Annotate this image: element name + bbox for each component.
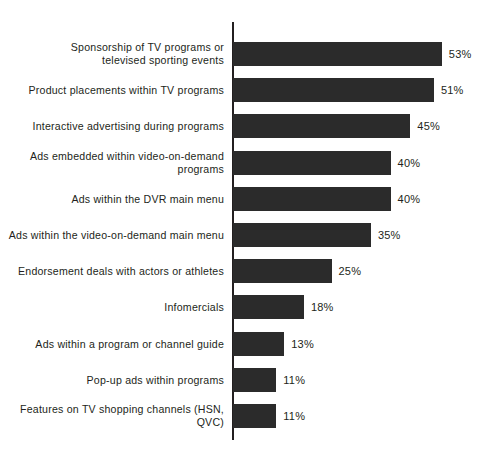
bar-value-label: 45% — [417, 120, 440, 132]
category-label: Ads within the video-on-demand main menu — [4, 229, 224, 242]
category-label: Sponsorship of TV programs or televised … — [4, 41, 224, 67]
bar-value-label: 35% — [378, 229, 401, 241]
bar — [233, 78, 434, 102]
bar-row: Sponsorship of TV programs or televised … — [0, 42, 488, 66]
bar — [233, 114, 410, 138]
category-label: Ads embedded within video-on-demand prog… — [4, 150, 224, 176]
category-label: Endorsement deals with actors or athlete… — [4, 265, 224, 278]
bar-value-label: 18% — [311, 301, 334, 313]
bar-row: Ads within the video-on-demand main menu… — [0, 223, 488, 247]
bar — [233, 332, 284, 356]
bar-row: Features on TV shopping channels (HSN, Q… — [0, 404, 488, 428]
bar — [233, 295, 304, 319]
bar-value-label: 25% — [339, 265, 362, 277]
bar — [233, 187, 391, 211]
bar — [233, 404, 276, 428]
category-label: Features on TV shopping channels (HSN, Q… — [4, 403, 224, 429]
bar-row: Ads within the DVR main menu40% — [0, 187, 488, 211]
bar-value-label: 11% — [283, 374, 305, 386]
bar-value-label: 53% — [449, 48, 472, 60]
bar-value-label: 40% — [398, 193, 421, 205]
category-label: Ads within the DVR main menu — [4, 192, 224, 205]
plot-area: Sponsorship of TV programs or televised … — [0, 0, 488, 471]
bar-row: Pop-up ads within programs11% — [0, 368, 488, 392]
bar — [233, 259, 332, 283]
category-label: Interactive advertising during programs — [4, 120, 224, 133]
bar-chart: Sponsorship of TV programs or televised … — [0, 0, 488, 471]
category-label: Ads within a program or channel guide — [4, 337, 224, 350]
bar-row: Product placements within TV programs51% — [0, 78, 488, 102]
bar-value-label: 13% — [291, 338, 314, 350]
bar — [233, 42, 442, 66]
bar-row: Interactive advertising during programs4… — [0, 114, 488, 138]
bar-row: Infomercials18% — [0, 295, 488, 319]
bar — [233, 368, 276, 392]
bar-value-label: 51% — [441, 84, 464, 96]
category-label: Infomercials — [4, 301, 224, 314]
bar-value-label: 40% — [398, 157, 421, 169]
bar-row: Ads within a program or channel guide13% — [0, 332, 488, 356]
bar — [233, 223, 371, 247]
bar-row: Endorsement deals with actors or athlete… — [0, 259, 488, 283]
bar-row: Ads embedded within video-on-demand prog… — [0, 151, 488, 175]
bar-value-label: 11% — [283, 410, 305, 422]
category-label: Product placements within TV programs — [4, 84, 224, 97]
category-label: Pop-up ads within programs — [4, 373, 224, 386]
bar — [233, 151, 391, 175]
